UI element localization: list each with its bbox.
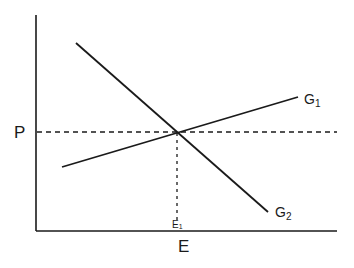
x-axis-label: E — [178, 237, 189, 256]
curve-g2 — [76, 43, 268, 212]
curve-g2-label: G2 — [275, 204, 292, 222]
curve-g1-label: G1 — [304, 91, 321, 109]
equilibrium-label: E1 — [172, 219, 183, 230]
diagram-canvas: P E E1 G1 G2 — [0, 0, 354, 268]
y-axis-label: P — [14, 123, 25, 142]
